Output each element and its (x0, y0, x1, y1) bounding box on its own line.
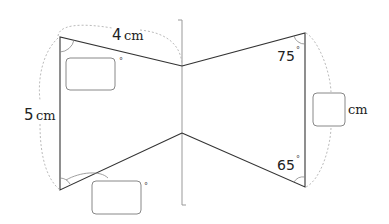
top-edge-length: 4 (112, 26, 122, 44)
angle-value-75: 75 (277, 48, 295, 64)
answer-input-box[interactable] (66, 58, 115, 90)
left-edge-length: 5 (24, 106, 34, 124)
top-edge-unit: cm (124, 28, 144, 43)
left-edge-label: 5 cm (24, 106, 56, 124)
answer-box-angle-bottom-left[interactable]: ° (92, 181, 148, 214)
answer-input-box[interactable] (92, 181, 141, 214)
angle-value-65: 65 (277, 157, 295, 173)
degree-symbol: ° (296, 155, 300, 164)
answer-box-angle-top-left[interactable]: ° (66, 57, 123, 90)
symmetry-axis (178, 20, 186, 205)
answer-box-right-edge-length[interactable]: cm (313, 93, 368, 126)
degree-symbol: ° (119, 57, 123, 66)
answer-input-box[interactable] (313, 93, 345, 126)
right-edge-unit: cm (348, 102, 368, 117)
top-edge-label: 4 cm (112, 26, 144, 44)
left-edge-unit: cm (36, 108, 56, 123)
degree-symbol: ° (144, 182, 148, 191)
symmetric-figure-diagram: 4 cm 5 cm 75 ° 65 ° ° ° cm (0, 0, 389, 224)
angle-label-top-right: 75 ° (277, 46, 300, 64)
angle-arc-top-left (60, 40, 74, 52)
angle-label-bottom-right: 65 ° (277, 155, 300, 173)
angle-arc-top-right (294, 36, 305, 44)
degree-symbol: ° (296, 46, 300, 55)
angle-arc-bottom-right (294, 177, 305, 182)
